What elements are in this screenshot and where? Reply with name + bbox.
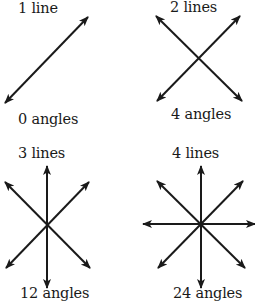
line-segments [5,16,255,288]
double-arrow-line-icon [5,17,88,103]
intersecting-lines-diagram [0,0,255,301]
